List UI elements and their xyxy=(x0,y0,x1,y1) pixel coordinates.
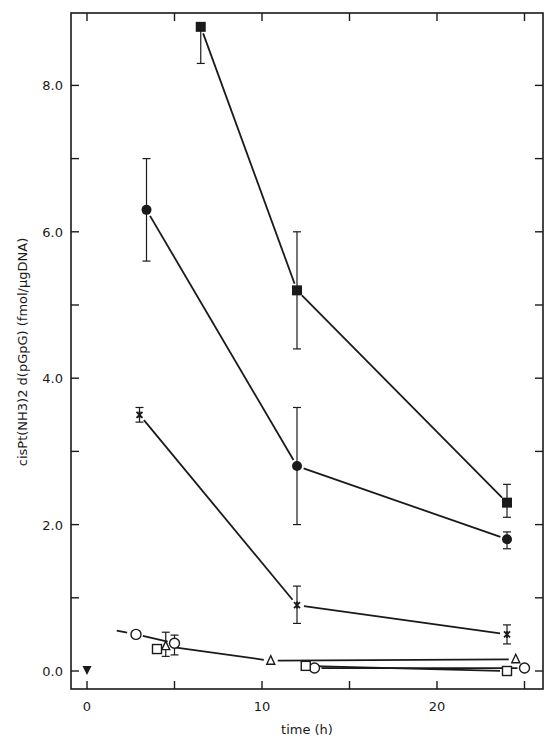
x-axis-title: time (h) xyxy=(281,722,333,737)
y-tick-label: 2.0 xyxy=(42,518,63,533)
marker-open-square xyxy=(503,667,512,676)
marker-filled-square xyxy=(196,22,206,32)
y-tick-label: 6.0 xyxy=(42,225,63,240)
series-lines xyxy=(117,33,518,670)
marker-star xyxy=(137,411,143,418)
series-line-filled-circle xyxy=(150,216,293,460)
series-line-star xyxy=(144,420,293,600)
series-line-open-triangle xyxy=(173,647,264,660)
marker-open-circle xyxy=(520,663,530,673)
marker-star xyxy=(294,602,300,609)
marker-star xyxy=(504,631,510,638)
series-line-filled-circle xyxy=(304,468,501,537)
series-line-star xyxy=(304,606,500,633)
y-tick-label: 8.0 xyxy=(42,78,63,93)
marker-open-square xyxy=(301,661,310,670)
series-line-filled-square xyxy=(203,33,294,283)
marker-open-circle xyxy=(170,638,180,648)
x-tick-label: 10 xyxy=(254,699,271,714)
marker-open-triangle xyxy=(512,654,520,663)
series-line-open-circle xyxy=(117,631,127,633)
x-tick-label: 20 xyxy=(429,699,446,714)
y-tick-label: 0.0 xyxy=(42,664,63,679)
marker-filled-circle xyxy=(142,205,152,215)
marker-open-square xyxy=(153,645,162,654)
axes: 010200.02.04.06.08.0 xyxy=(42,13,543,714)
plot-frame xyxy=(71,13,543,689)
data-markers xyxy=(83,22,530,676)
marker-filled-square xyxy=(502,498,512,508)
chart: 010200.02.04.06.08.0 time (h) cisPt(NH3)… xyxy=(0,0,554,744)
error-bars xyxy=(136,27,512,657)
marker-filled-circle xyxy=(502,534,512,544)
marker-open-triangle xyxy=(267,656,275,665)
marker-open-triangle xyxy=(162,641,170,650)
series-line-open-circle xyxy=(143,636,168,642)
series-line-open-triangle xyxy=(278,659,509,660)
y-tick-label: 4.0 xyxy=(42,371,63,386)
x-tick-label: 0 xyxy=(83,699,91,714)
y-axis-title: cisPt(NH3)2 d(pGpG) (fmol/µgDNA) xyxy=(15,238,30,466)
marker-open-circle xyxy=(310,663,320,673)
marker-filled-down-triangle xyxy=(83,666,92,675)
marker-filled-circle xyxy=(292,461,302,471)
series-line-filled-square xyxy=(302,295,502,497)
marker-open-circle xyxy=(131,629,141,639)
marker-filled-square xyxy=(292,285,302,295)
